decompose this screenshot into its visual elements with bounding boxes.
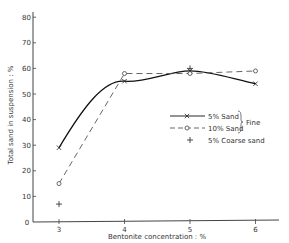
circle-marker-icon: [185, 126, 189, 130]
y-tick-label: 20: [22, 167, 31, 175]
y-tick-label: 50: [22, 91, 31, 99]
y-tick-label: 30: [22, 142, 31, 150]
circle-marker-icon: [254, 69, 258, 73]
circle-marker-icon: [123, 72, 127, 76]
series-5-coarse-sand: [56, 65, 193, 207]
y-tick-label: 40: [22, 116, 31, 124]
legend-item: 5% Coarse sand: [187, 137, 265, 145]
x-tick-label: 6: [253, 226, 258, 234]
legend-label: 5% Coarse sand: [208, 137, 265, 145]
legend-label: 5% Sand: [208, 113, 239, 121]
legend-label: 10% Sand: [208, 125, 243, 133]
y-tick-label: 10: [22, 193, 31, 201]
y-tick-label: 70: [22, 39, 31, 47]
x-tick-label: 3: [57, 226, 61, 234]
x-marker-icon: [57, 146, 61, 150]
origin-label: 0: [25, 219, 29, 227]
y-tick-label: 80: [22, 14, 31, 22]
legend: 5% Sand10% Sand5% Coarse sandFine: [170, 111, 265, 145]
legend-group-label: Fine: [246, 119, 260, 127]
plus-marker-icon: [56, 201, 62, 207]
legend-item: 10% Sand: [170, 125, 243, 133]
chart: 102030405060708003456 5% Sand10% Sand5% …: [0, 0, 289, 243]
legend-item: 5% Sand: [170, 113, 239, 121]
circle-marker-icon: [188, 72, 192, 76]
plus-marker-icon: [187, 137, 193, 143]
circle-marker-icon: [57, 182, 61, 186]
y-tick-label: 60: [22, 65, 31, 73]
axes: 102030405060708003456: [22, 12, 279, 234]
x-axis-line: [33, 220, 279, 222]
y-axis-title: Total sand in suspension : %: [7, 65, 15, 165]
x-axis-title: Bentonite concentration : %: [108, 233, 207, 241]
